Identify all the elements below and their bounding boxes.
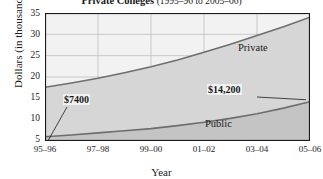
- x-tick-label: 03–04: [235, 145, 279, 154]
- series-label-public: Public: [205, 118, 232, 129]
- y-tick-label: 35: [16, 9, 40, 18]
- annotation-14200: $14,200: [207, 84, 242, 95]
- x-tick-label: 97–98: [76, 145, 120, 154]
- x-tick-label: 95–96: [23, 145, 67, 154]
- y-tick-label: 10: [16, 114, 40, 123]
- x-tick-label: 05–06: [288, 145, 323, 154]
- plot-svg: [45, 13, 310, 141]
- y-tick-label: 20: [16, 72, 40, 81]
- x-tick-label: 01–02: [182, 145, 226, 154]
- y-tick-label: 25: [16, 51, 40, 60]
- plot-area: $7400 $14,200 Private Public: [45, 13, 310, 141]
- chart-figure: Private Colleges (1995–96 to 2005–06) Do…: [0, 0, 323, 179]
- x-tick-label: 99–00: [129, 145, 173, 154]
- series-label-private: Private: [238, 42, 268, 53]
- y-tick-label: 30: [16, 30, 40, 39]
- y-tick-label: 15: [16, 93, 40, 102]
- annotation-7400: $7400: [63, 94, 90, 105]
- y-tick-label: 5: [16, 135, 40, 144]
